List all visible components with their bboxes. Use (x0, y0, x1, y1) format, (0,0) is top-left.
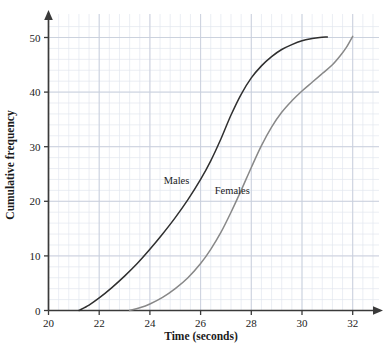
y-axis-tick-labels: 01020304050 (30, 32, 42, 317)
y-tick-label: 20 (30, 195, 42, 207)
y-tick-label: 0 (35, 305, 41, 317)
chart-canvas: 20222426283032 01020304050 MalesFemales … (0, 0, 387, 346)
y-tick-label: 50 (30, 32, 42, 44)
y-tick-label: 40 (30, 86, 42, 98)
series-label-males: Males (164, 175, 190, 186)
y-tick-label: 30 (30, 141, 42, 153)
series-label-females: Females (215, 185, 250, 196)
x-tick-label: 32 (347, 317, 358, 329)
series-curves (79, 36, 353, 310)
major-gridlines (49, 14, 380, 311)
x-tick-label: 20 (43, 317, 55, 329)
x-axis-tick-labels: 20222426283032 (43, 317, 358, 329)
minor-gridlines (49, 14, 380, 311)
x-tick-label: 28 (246, 317, 258, 329)
y-axis-title: Cumulative frequency (4, 110, 17, 220)
x-tick-label: 30 (297, 317, 309, 329)
x-tick-label: 22 (94, 317, 105, 329)
x-tick-label: 24 (144, 317, 156, 329)
x-tick-label: 26 (195, 317, 207, 329)
series-curve-males (79, 37, 327, 311)
axis-ticks (44, 38, 353, 316)
cumulative-frequency-chart: 20222426283032 01020304050 MalesFemales … (0, 0, 387, 346)
x-axis-title: Time (seconds) (164, 330, 238, 343)
series-annotations: MalesFemales (164, 175, 250, 196)
y-tick-label: 10 (30, 250, 42, 262)
